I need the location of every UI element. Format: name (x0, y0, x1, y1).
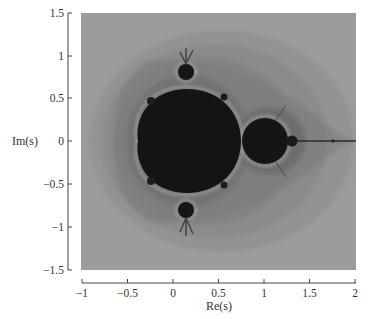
x-axis: −1 −0.5 0 0.5 1 1.5 2 Re(s) (76, 279, 358, 313)
x-tick-label: −1 (76, 287, 88, 299)
y-tick-label: −0.5 (43, 178, 64, 190)
y-tick-label: 1.5 (50, 7, 65, 19)
y-tick-label: 0 (58, 135, 64, 147)
x-tick-label: 1 (261, 287, 267, 299)
y-tick-label: −1.5 (43, 264, 64, 276)
x-tick-label: 0 (170, 287, 176, 299)
x-tick-label: −0.5 (117, 287, 138, 299)
y-tick-label: 0.5 (50, 92, 65, 104)
x-tick-label: 1.5 (302, 287, 317, 299)
x-tick-label: 0.5 (211, 287, 226, 299)
y-tick-label: −1 (52, 221, 64, 233)
y-axis-title: Im(s) (12, 134, 38, 148)
fractal-plot: 1.5 1 0.5 0 −0.5 −1 −1.5 Im(s) −1 −0.5 0… (0, 0, 368, 319)
x-tick-label: 2 (352, 287, 358, 299)
x-axis-title: Re(s) (206, 299, 232, 313)
plot-area (81, 13, 356, 270)
y-tick-label: 1 (58, 50, 64, 62)
y-axis: 1.5 1 0.5 0 −0.5 −1 −1.5 Im(s) (12, 7, 72, 276)
